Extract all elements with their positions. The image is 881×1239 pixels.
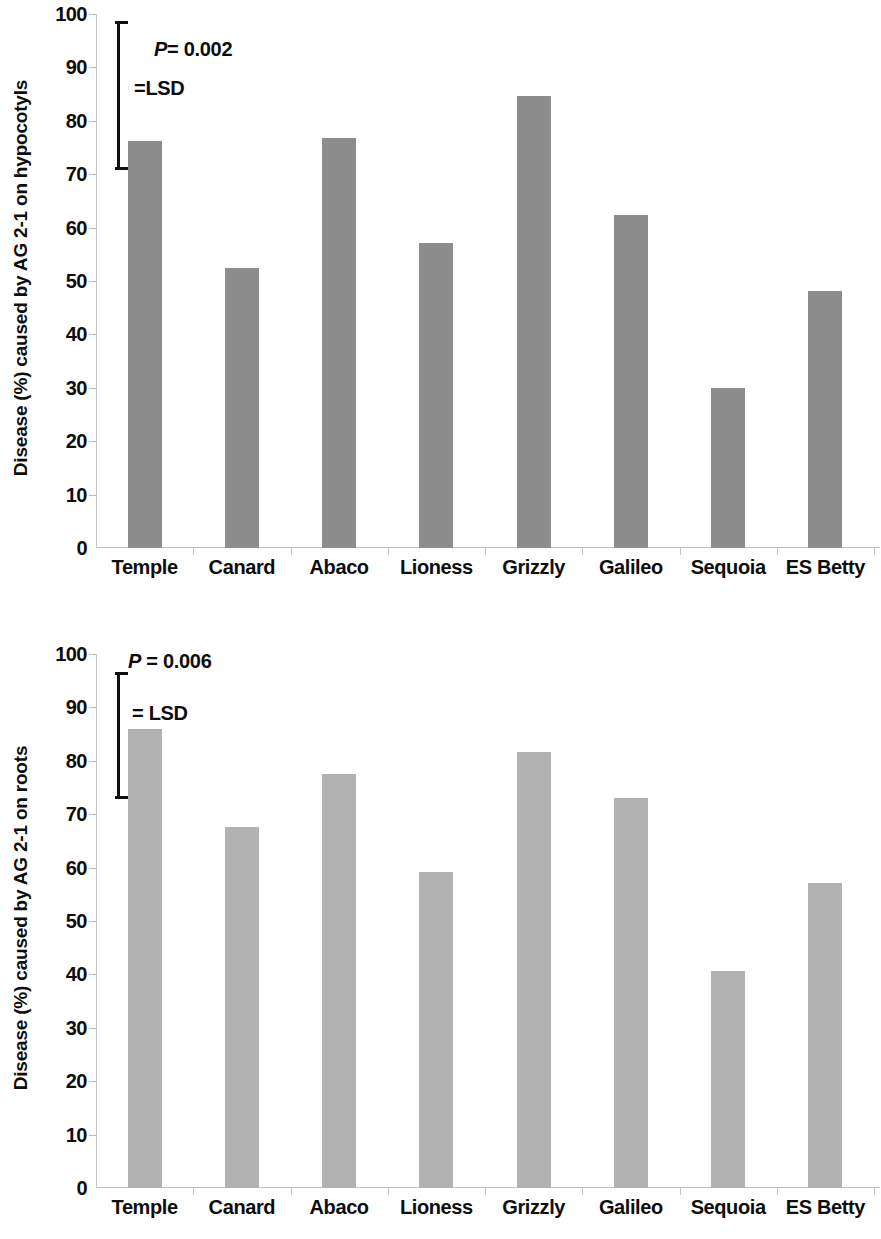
- x-axis-label-es-betty: ES Betty: [786, 556, 865, 579]
- x-axis-tick-mark: [388, 548, 389, 555]
- y-axis-tick-mark: [89, 441, 96, 442]
- bar-canard: [225, 268, 259, 548]
- y-axis-tick-mark: [89, 654, 96, 655]
- x-axis-label-abaco: Abaco: [310, 556, 369, 579]
- x-axis-tick-mark: [680, 1188, 681, 1195]
- y-axis-tick-label: 60: [35, 216, 96, 239]
- chart-hypocotyls: Disease (%) caused by AG 2-1 on hypocoty…: [0, 0, 881, 600]
- x-axis-label-canard: Canard: [209, 1196, 276, 1219]
- lsd-cap-top: [115, 672, 128, 675]
- bar-canard: [225, 827, 259, 1188]
- y-axis-tick-mark: [89, 1135, 96, 1136]
- x-axis-tick-mark: [485, 548, 486, 555]
- y-axis-tick-mark: [89, 1028, 96, 1029]
- x-axis-label-lioness: Lioness: [400, 1196, 473, 1219]
- x-axis-tick-mark: [582, 548, 583, 555]
- bar-lioness: [419, 872, 453, 1188]
- y-axis-tick-label: 50: [35, 910, 96, 933]
- bar-series-hypocotyls: [96, 14, 874, 548]
- x-axis-label-temple: Temple: [112, 1196, 178, 1219]
- p-value-text: = 0.006: [146, 650, 211, 672]
- x-axis-label-temple: Temple: [112, 556, 178, 579]
- y-axis-tick-label: 50: [35, 270, 96, 293]
- y-axis-tick-label: 40: [35, 963, 96, 986]
- bar-temple: [128, 729, 162, 1188]
- bar-es-betty: [808, 883, 842, 1188]
- bar-series-roots: [96, 654, 874, 1188]
- y-axis-tick-mark: [89, 495, 96, 496]
- y-axis-tick-mark: [89, 974, 96, 975]
- x-axis-tick-mark: [874, 1188, 875, 1195]
- x-axis-tick-mark: [680, 548, 681, 555]
- x-axis-label-lioness: Lioness: [400, 556, 473, 579]
- y-axis-tick-mark: [89, 121, 96, 122]
- x-axis-label-canard: Canard: [209, 556, 276, 579]
- x-axis-label-grizzly: Grizzly: [502, 1196, 565, 1219]
- y-axis-tick-label: 100: [35, 3, 96, 26]
- bar-grizzly: [517, 752, 551, 1188]
- p-symbol: P: [128, 650, 141, 672]
- y-axis-tick-mark: [89, 281, 96, 282]
- y-axis-tick-label: 0: [35, 537, 96, 560]
- x-axis-labels-hypocotyls: TempleCanardAbacoLionessGrizzlyGalileoSe…: [96, 556, 874, 590]
- x-axis-tick-mark: [291, 548, 292, 555]
- bar-temple: [128, 141, 162, 548]
- y-axis-tick-label: 90: [35, 696, 96, 719]
- y-axis-tick-label: 10: [35, 483, 96, 506]
- y-axis-tick-mark: [89, 14, 96, 15]
- y-axis-tick-label: 80: [35, 109, 96, 132]
- bar-abaco: [322, 138, 356, 548]
- y-axis-tick-label: 30: [35, 1016, 96, 1039]
- bar-es-betty: [808, 291, 842, 548]
- y-axis-tick-mark: [89, 707, 96, 708]
- y-axis-tick-mark: [89, 814, 96, 815]
- bar-grizzly: [517, 96, 551, 548]
- plot-area-roots: 0102030405060708090100 P = 0.006 = LSD: [96, 654, 874, 1188]
- lsd-bar-line: [117, 673, 120, 797]
- x-axis-tick-mark: [777, 548, 778, 555]
- y-axis-tick-label: 20: [35, 1070, 96, 1093]
- p-value-annotation-hypocotyls: P= 0.002: [154, 38, 232, 61]
- lsd-cap-bottom: [115, 167, 128, 170]
- y-axis-tick-mark: [89, 388, 96, 389]
- x-axis-tick-mark: [291, 1188, 292, 1195]
- y-axis-tick-label: 70: [35, 163, 96, 186]
- y-axis-tick-label: 90: [35, 56, 96, 79]
- chart-roots: Disease (%) caused by AG 2-1 on roots 01…: [0, 640, 881, 1239]
- bar-abaco: [322, 774, 356, 1188]
- bar-galileo: [614, 798, 648, 1188]
- x-axis-tick-mark: [388, 1188, 389, 1195]
- y-axis-tick-mark: [89, 67, 96, 68]
- y-axis-tick-mark: [89, 868, 96, 869]
- p-value-annotation-roots: P = 0.006: [128, 650, 212, 673]
- x-axis-tick-mark: [193, 548, 194, 555]
- x-axis-tick-mark: [777, 1188, 778, 1195]
- lsd-bar-line: [117, 22, 120, 168]
- lsd-label-hypocotyls: =LSD: [134, 77, 184, 100]
- p-value-text: = 0.002: [167, 38, 232, 60]
- y-axis-tick-mark: [89, 1081, 96, 1082]
- lsd-cap-top: [115, 21, 128, 24]
- y-axis-tick-label: 30: [35, 376, 96, 399]
- y-axis-tick-mark: [89, 921, 96, 922]
- x-axis-labels-roots: TempleCanardAbacoLionessGrizzlyGalileoSe…: [96, 1196, 874, 1230]
- lsd-cap-bottom: [115, 796, 128, 799]
- bar-lioness: [419, 243, 453, 548]
- y-axis-tick-label: 40: [35, 323, 96, 346]
- plot-area-hypocotyls: 0102030405060708090100 P= 0.002 =LSD: [96, 14, 874, 548]
- y-axis-tick-mark: [89, 334, 96, 335]
- x-axis-tick-mark: [582, 1188, 583, 1195]
- x-axis-label-galileo: Galileo: [599, 1196, 663, 1219]
- x-axis-label-grizzly: Grizzly: [502, 556, 565, 579]
- x-axis-tick-mark: [193, 1188, 194, 1195]
- x-axis-tick-mark: [874, 548, 875, 555]
- y-axis-tick-label: 100: [35, 643, 96, 666]
- p-symbol: P: [154, 38, 167, 60]
- y-axis-tick-label: 20: [35, 430, 96, 453]
- y-axis-tick-label: 60: [35, 856, 96, 879]
- y-axis-tick-mark: [89, 174, 96, 175]
- x-axis-label-es-betty: ES Betty: [786, 1196, 865, 1219]
- x-axis-tick-mark: [485, 1188, 486, 1195]
- x-axis-label-abaco: Abaco: [310, 1196, 369, 1219]
- y-axis-tick-mark: [89, 761, 96, 762]
